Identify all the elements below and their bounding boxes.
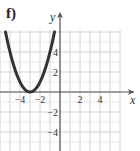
- y-axis-label: y: [49, 10, 56, 24]
- y-tick-label: 4: [53, 47, 58, 58]
- x-tick-label: −4: [15, 94, 26, 105]
- y-tick-label: 2: [53, 67, 58, 78]
- y-tick-label: −4: [47, 127, 58, 138]
- y-tick-label: −2: [47, 107, 58, 118]
- parabola-chart: −4−22442−2−4 x y: [0, 0, 140, 151]
- x-tick-label: −2: [35, 94, 46, 105]
- x-axis-label: x: [129, 93, 136, 107]
- x-tick-label: 4: [98, 94, 103, 105]
- x-tick-label: 2: [78, 94, 83, 105]
